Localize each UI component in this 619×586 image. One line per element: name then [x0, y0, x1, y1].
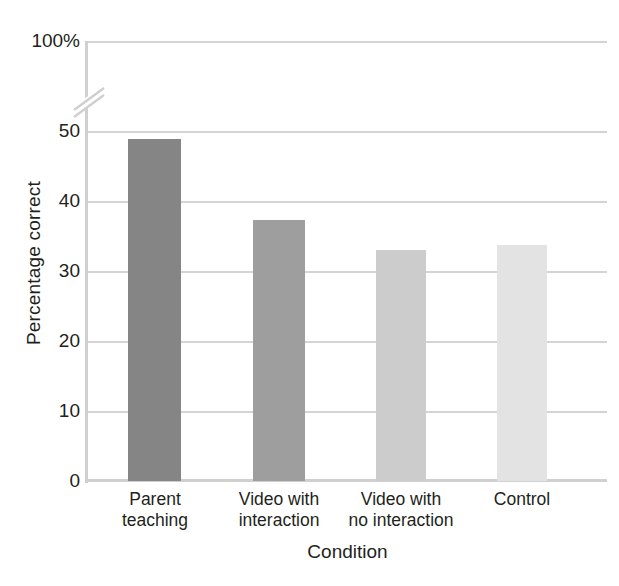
gridline-50	[88, 131, 607, 133]
x-tick-line1: Video with	[336, 489, 466, 510]
axis-break-marker	[72, 86, 106, 118]
x-tick-label-3: Control	[457, 489, 587, 510]
bar-chart: 100% 50 40 30 20 10 0 Percentage correct…	[0, 0, 619, 586]
clipped-header-text	[0, 0, 619, 3]
bar-parent-teaching[interactable]	[128, 139, 181, 481]
y-tick-text-50: 50	[59, 120, 80, 141]
x-tick-line2: teaching	[90, 510, 220, 531]
bar-control[interactable]	[497, 245, 547, 481]
x-tick-line1: Control	[457, 489, 587, 510]
y-axis-title: Percentage correct	[23, 43, 45, 483]
y-tick-text-0: 0	[69, 470, 80, 491]
bar-video-with-no-interaction[interactable]	[376, 250, 426, 481]
x-tick-label-2: Video with no interaction	[336, 489, 466, 531]
y-tick-text-10: 10	[59, 400, 80, 421]
bar-video-with-interaction[interactable]	[253, 220, 305, 481]
x-tick-line2: interaction	[214, 510, 344, 531]
x-tick-label-0: Parent teaching	[90, 489, 220, 531]
y-tick-text-30: 30	[59, 260, 80, 281]
x-tick-line1: Parent	[90, 489, 220, 510]
x-tick-line2: no interaction	[336, 510, 466, 531]
gridline-100	[88, 41, 607, 43]
y-tick-text-40: 40	[59, 190, 80, 211]
x-axis-title: Condition	[88, 541, 607, 563]
y-tick-text-20: 20	[59, 330, 80, 351]
x-tick-line1: Video with	[214, 489, 344, 510]
x-tick-label-1: Video with interaction	[214, 489, 344, 531]
